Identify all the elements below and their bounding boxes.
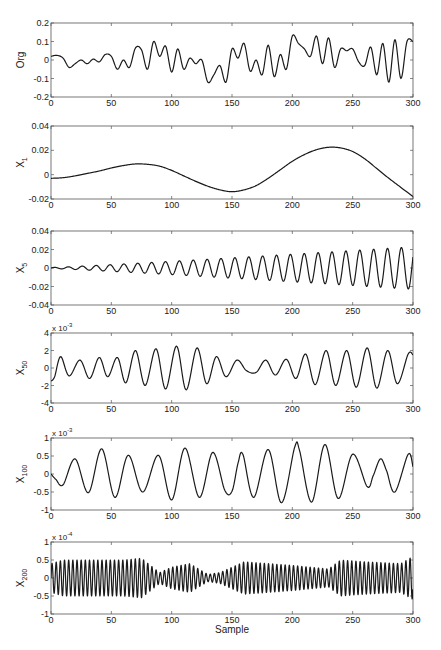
y-axis-label: X1 <box>15 157 28 168</box>
y-tick-label: 1 <box>44 433 49 443</box>
x-tick-label: 200 <box>285 98 300 108</box>
x-tick-label: 100 <box>164 404 179 414</box>
signal-line <box>51 442 413 503</box>
x-tick-label: 100 <box>164 511 179 521</box>
y-tick-label: 2 <box>44 346 49 356</box>
x-tick-label: 300 <box>405 306 420 316</box>
x-tick-label: 0 <box>48 200 53 210</box>
x-tick-label: 300 <box>405 200 420 210</box>
x-tick-label: 250 <box>345 615 360 625</box>
y-tick-label: -0.5 <box>33 487 49 497</box>
y-axis-label: Org <box>15 52 26 69</box>
x-tick-label: 0 <box>48 511 53 521</box>
signal-line <box>51 346 413 390</box>
y-tick-label: 0.02 <box>31 145 49 155</box>
y-tick-label: 0 <box>44 363 49 373</box>
x-tick-label: 250 <box>345 404 360 414</box>
y-exponent-label: x 10-4 <box>52 531 73 542</box>
axes-box <box>51 23 413 97</box>
x-tick-label: 250 <box>345 200 360 210</box>
x-tick-label: 250 <box>345 306 360 316</box>
x-tick-label: 0 <box>48 404 53 414</box>
x-tick-label: 300 <box>405 98 420 108</box>
x-tick-label: 200 <box>285 306 300 316</box>
y-tick-label: 0.2 <box>36 18 49 28</box>
subplot-x100: 050100150200250300-1-0.500.51x 10-3X100 <box>15 427 421 521</box>
y-tick-label: 0 <box>44 170 49 180</box>
x-tick-label: 50 <box>106 200 116 210</box>
y-axis-label: X200 <box>15 569 28 587</box>
y-tick-label: 0 <box>44 263 49 273</box>
x-tick-label: 0 <box>48 98 53 108</box>
x-tick-label: 50 <box>106 306 116 316</box>
y-exponent-label: x 10-3 <box>52 427 73 438</box>
y-tick-label: 4 <box>44 328 49 338</box>
x-tick-label: 300 <box>405 404 420 414</box>
signal-line <box>51 147 413 196</box>
subplot-x50: 050100150200250300-4-2024x 10-3X50 <box>15 322 421 414</box>
subplot-x5: 050100150200250300-0.04-0.0200.020.04X5 <box>15 226 421 316</box>
x-tick-label: 150 <box>224 404 239 414</box>
x-tick-label: 100 <box>164 200 179 210</box>
figure: 050100150200250300-0.2-0.100.10.2Org0501… <box>0 0 441 650</box>
x-tick-label: 0 <box>48 615 53 625</box>
y-tick-label: 0.5 <box>36 555 49 565</box>
y-tick-label: 1 <box>44 537 49 547</box>
x-tick-label: 100 <box>164 98 179 108</box>
subplot-org: 050100150200250300-0.2-0.100.10.2Org <box>15 18 421 108</box>
x-tick-label: 200 <box>285 615 300 625</box>
y-tick-label: -0.5 <box>33 591 49 601</box>
axes-box <box>51 438 413 510</box>
x-tick-label: 150 <box>224 98 239 108</box>
subplot-x1: 050100150200250300-0.0200.020.04X1 <box>15 121 421 210</box>
y-tick-label: -0.1 <box>33 74 49 84</box>
x-tick-label: 300 <box>405 615 420 625</box>
y-tick-label: -1 <box>41 505 49 515</box>
x-tick-label: 50 <box>106 404 116 414</box>
y-tick-label: -0.02 <box>28 194 49 204</box>
y-tick-label: -1 <box>41 609 49 619</box>
y-axis-label: X100 <box>15 465 28 483</box>
x-tick-label: 150 <box>224 200 239 210</box>
x-tick-label: 50 <box>106 511 116 521</box>
y-tick-label: 0.02 <box>31 245 49 255</box>
signal-line <box>51 248 413 289</box>
x-tick-label: 100 <box>164 615 179 625</box>
x-tick-label: 200 <box>285 404 300 414</box>
x-tick-label: 200 <box>285 200 300 210</box>
y-tick-label: 0.1 <box>36 37 49 47</box>
y-tick-label: 0.04 <box>31 226 49 236</box>
x-tick-label: 50 <box>106 615 116 625</box>
x-tick-label: 150 <box>224 306 239 316</box>
y-axis-label: X5 <box>15 263 28 274</box>
y-tick-label: 0.5 <box>36 451 49 461</box>
y-tick-label: 0 <box>44 55 49 65</box>
x-tick-label: 200 <box>285 511 300 521</box>
signal-line <box>51 558 413 599</box>
x-tick-label: 300 <box>405 511 420 521</box>
y-tick-label: -0.02 <box>28 282 49 292</box>
axes-box <box>51 126 413 199</box>
x-axis-label: Sample <box>215 624 249 635</box>
y-axis-label: X50 <box>15 361 28 376</box>
x-tick-label: 250 <box>345 511 360 521</box>
y-tick-label: -2 <box>41 381 49 391</box>
y-tick-label: 0.04 <box>31 121 49 131</box>
y-tick-label: 0 <box>44 469 49 479</box>
subplot-x200: 050100150200250300-1-0.500.51x 10-4X200S… <box>15 531 421 635</box>
x-tick-label: 100 <box>164 306 179 316</box>
signal-line <box>51 35 413 83</box>
y-tick-label: 0 <box>44 573 49 583</box>
x-tick-label: 0 <box>48 306 53 316</box>
y-exponent-label: x 10-3 <box>52 322 73 333</box>
y-tick-label: -0.2 <box>33 92 49 102</box>
y-tick-label: -0.04 <box>28 300 49 310</box>
x-tick-label: 50 <box>106 98 116 108</box>
x-tick-label: 250 <box>345 98 360 108</box>
x-tick-label: 150 <box>224 511 239 521</box>
y-tick-label: -4 <box>41 398 49 408</box>
